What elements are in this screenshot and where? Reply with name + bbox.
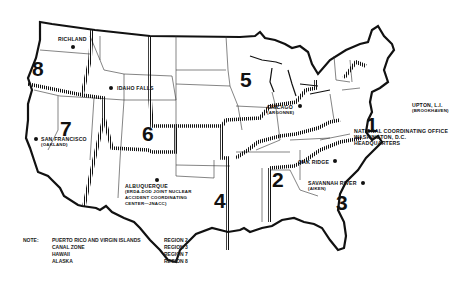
note-region-2: REGION 7 <box>164 251 188 258</box>
upton-label: UPTON, L.I. (BROOKHAVEN) <box>412 102 449 114</box>
note-area-0: PUERTO RICO AND VIRGIN ISLANDS <box>52 237 141 244</box>
note-region-1: REGION 3 <box>164 244 188 251</box>
chicago-label: CHICAGO (ARGONNE) <box>267 104 294 116</box>
note-region-3: REGION 8 <box>164 258 188 265</box>
region-5-number: 5 <box>240 69 252 90</box>
san-francisco-label: SAN FRANCISCO (OAKLAND) <box>41 136 87 148</box>
richland-marker <box>71 45 75 49</box>
san-francisco-marker <box>34 137 38 141</box>
richland-label: RICHLAND <box>58 36 87 42</box>
region-8-number: 8 <box>32 58 44 79</box>
note-area-1: CANAL ZONE <box>52 244 85 251</box>
idaho-falls-label: IDAHO FALLS <box>117 85 154 91</box>
region-3-number: 3 <box>336 192 348 213</box>
albuquerque-marker <box>155 178 159 182</box>
region-4-number: 4 <box>214 190 226 211</box>
note-area-3: ALASKA <box>52 258 73 265</box>
chicago-marker <box>298 104 302 108</box>
note-label: NOTE: <box>23 237 39 244</box>
albuquerque-label: ALBUQUERQUE (ERDA-DOD JOINT NUCLEAR ACCI… <box>125 183 192 207</box>
oak-ridge-label: OAK RIDGE <box>298 159 329 165</box>
washington-hq-label: NATIONAL COORDINATING OFFICE WASHINGTON,… <box>354 128 448 146</box>
note-region-0: REGION 2 <box>164 237 188 244</box>
note-area-2: HAWAII <box>52 251 70 258</box>
oak-ridge-marker <box>333 159 337 163</box>
region-6-number: 6 <box>142 123 154 144</box>
idaho-falls-marker <box>109 86 113 90</box>
savannah-river-marker <box>361 181 365 185</box>
savannah-river-label: SAVANNAH RIVER (AIKEN) <box>308 180 357 192</box>
region-2-number: 2 <box>272 169 284 190</box>
